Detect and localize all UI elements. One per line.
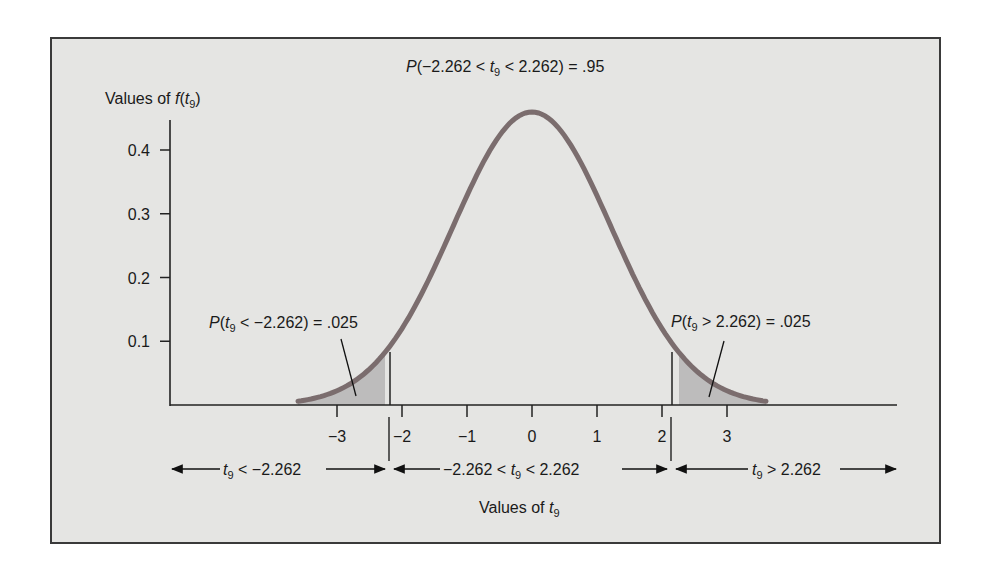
- x-tick-label: 3: [723, 428, 732, 445]
- y-axis-ticks: 0.10.20.30.4: [128, 142, 170, 350]
- x-tick-label: −1: [458, 428, 476, 445]
- chart-svg: 0.10.20.30.4 −3−2−10123 Values of f(t9) …: [0, 0, 990, 577]
- y-tick-label: 0.1: [128, 333, 150, 350]
- y-tick-label: 0.3: [128, 206, 150, 223]
- region-right-label: t9 > 2.262: [752, 461, 821, 481]
- x-tick-label: 1: [593, 428, 602, 445]
- y-tick-label: 0.2: [128, 270, 150, 287]
- right-tail-probability-label: P(t9 > 2.262) = .025: [671, 313, 811, 333]
- t-distribution-figure: 0.10.20.30.4 −3−2−10123 Values of f(t9) …: [0, 0, 990, 577]
- y-tick-label: 0.4: [128, 142, 150, 159]
- y-axis-label: Values of f(t9): [105, 90, 201, 110]
- region-left-label: t9 < −2.262: [223, 461, 301, 481]
- x-axis-label: Values of t9: [479, 499, 560, 519]
- central-probability-label: P(−2.262 < t9 < 2.262) = .95: [406, 58, 604, 78]
- density-curve: [298, 112, 766, 401]
- x-tick-label: 2: [658, 428, 667, 445]
- left-tail-probability-label: P(t9 < −2.262) = .025: [209, 314, 358, 334]
- x-tick-label: −3: [328, 428, 346, 445]
- x-tick-label: 0: [528, 428, 537, 445]
- region-middle-label: −2.262 < t9 < 2.262: [443, 461, 580, 481]
- x-tick-label: −2: [393, 428, 411, 445]
